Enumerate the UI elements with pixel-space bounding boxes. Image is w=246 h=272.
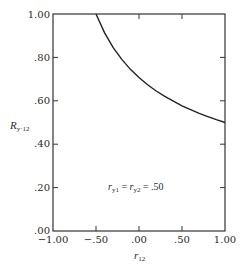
- y-tick-4: .80: [34, 52, 50, 63]
- x-tick-1: −.50: [84, 234, 108, 245]
- x-tick-0: −1.00: [38, 234, 69, 245]
- annotation: ry1 = ry2 = .50: [108, 181, 164, 194]
- plot-frame: [53, 14, 225, 231]
- chart: .00 .20 .40 .60 .80 1.00 −1.00 −.50 .00 …: [0, 0, 246, 272]
- x-tick-2: .00: [131, 234, 147, 245]
- y-tick-labels: .00 .20 .40 .60 .80 1.00: [28, 9, 50, 236]
- x-tick-labels: −1.00 −.50 .00 .50 1.00: [38, 234, 236, 245]
- data-curve: [96, 14, 225, 123]
- x-tick-4: 1.00: [214, 234, 236, 245]
- x-axis-ticks: [96, 14, 182, 231]
- x-tick-3: .50: [174, 234, 190, 245]
- y-tick-2: .40: [34, 138, 50, 149]
- x-axis-label: r12: [134, 249, 146, 263]
- y-tick-1: .20: [34, 182, 50, 193]
- y-axis-label: Ry·12: [9, 119, 30, 133]
- y-tick-5: 1.00: [28, 9, 50, 20]
- y-tick-3: .60: [34, 95, 50, 106]
